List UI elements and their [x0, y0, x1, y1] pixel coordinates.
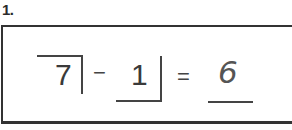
answer: 6 — [218, 57, 238, 88]
problem-number-label: 1. — [2, 1, 14, 18]
operand-1: 7 — [55, 60, 72, 90]
minus-sign: − — [93, 62, 106, 84]
operand-1-box-right — [81, 55, 83, 94]
operand-2-box-bottom — [116, 100, 162, 102]
equals-sign: = — [177, 66, 190, 88]
operand-2: 1 — [131, 60, 148, 90]
operand-1-box-top — [37, 55, 83, 57]
operand-2-box-right — [160, 56, 162, 102]
answer-underline — [208, 101, 253, 103]
